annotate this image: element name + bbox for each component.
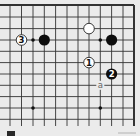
black-stone <box>106 34 117 45</box>
white-stone-3: 3 <box>16 35 27 46</box>
star-point <box>31 38 35 42</box>
point-markers: a <box>96 80 104 90</box>
white-stone-1: 1 <box>84 57 95 68</box>
move-number: 1 <box>86 58 92 68</box>
cropped-caption-rule <box>118 132 136 134</box>
white-stone <box>84 23 95 34</box>
black-stone-2: 2 <box>106 68 117 79</box>
star-point <box>99 38 103 42</box>
cropped-caption-mark <box>7 131 15 136</box>
marker-label-a: a <box>98 80 103 90</box>
move-number: 3 <box>19 35 25 45</box>
move-number: 2 <box>109 69 115 79</box>
black-stone <box>39 34 50 45</box>
grid-lines <box>0 5 134 126</box>
star-point <box>99 106 103 110</box>
star-point <box>31 106 35 110</box>
go-board: a 312 <box>0 0 140 136</box>
